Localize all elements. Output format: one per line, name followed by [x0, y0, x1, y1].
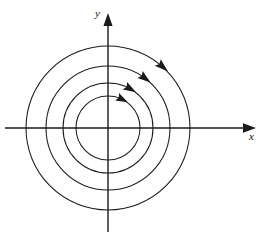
direction-arrow-orbit-2 [123, 82, 138, 96]
y-axis-label: y [95, 8, 100, 19]
x-axis-label: x [249, 131, 254, 142]
direction-arrow-orbit-1 [115, 93, 129, 106]
y-axis-arrowhead [103, 13, 112, 26]
phase-portrait-canvas [0, 0, 267, 244]
phase-portrait-figure: y x [0, 0, 267, 244]
